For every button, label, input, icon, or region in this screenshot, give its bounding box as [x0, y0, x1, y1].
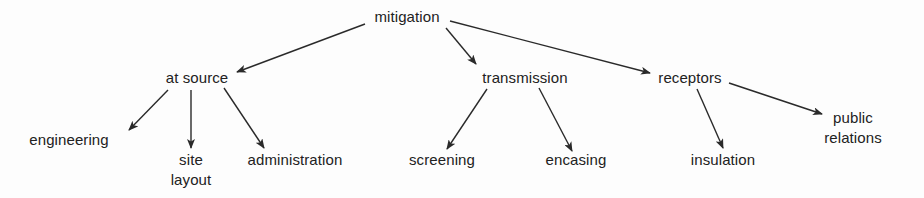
node-public-relations: public relations	[824, 108, 882, 148]
arrow-mitigation-to-transmission	[446, 28, 476, 64]
node-label: engineering	[29, 130, 109, 150]
arrow-transmission-to-encasing	[539, 88, 572, 151]
node-label: administration	[248, 150, 343, 170]
arrow-receptors-to-insulation	[697, 89, 723, 148]
node-label: encasing	[546, 150, 607, 170]
node-transmission: transmission	[482, 68, 567, 88]
mitigation-tree-diagram: mitigation at source transmission recept…	[0, 0, 924, 198]
node-label: insulation	[691, 150, 755, 170]
node-label-line2: layout	[171, 170, 212, 190]
node-label: mitigation	[374, 7, 439, 27]
arrow-receptors-to-public-relations	[729, 83, 822, 114]
node-screening: screening	[409, 150, 475, 170]
arrow-mitigation-to-at-source	[237, 24, 365, 72]
node-encasing: encasing	[546, 150, 607, 170]
node-label-line2: relations	[824, 128, 882, 148]
node-at-source: at source	[166, 68, 229, 88]
node-site-layout: site layout	[171, 150, 212, 190]
node-mitigation: mitigation	[374, 7, 439, 27]
arrow-at-source-to-administration	[224, 88, 264, 148]
node-administration: administration	[248, 150, 343, 170]
arrow-at-source-to-engineering	[129, 90, 168, 130]
node-receptors: receptors	[658, 68, 721, 88]
arrow-mitigation-to-receptors	[450, 21, 650, 73]
node-label: transmission	[482, 68, 567, 88]
node-label-line1: site	[171, 150, 212, 170]
node-label: screening	[409, 150, 475, 170]
node-insulation: insulation	[691, 150, 755, 170]
node-label-line1: public	[824, 108, 882, 128]
node-label: receptors	[658, 68, 721, 88]
node-label: at source	[166, 68, 229, 88]
node-engineering: engineering	[29, 130, 109, 150]
arrow-transmission-to-screening	[447, 89, 487, 149]
